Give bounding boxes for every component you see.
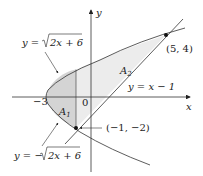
svg-text:2x + 6: 2x + 6 <box>47 150 82 161</box>
upper-parabola-label: y = 2x + 6 <box>21 34 84 48</box>
area-between-curves-diagram: y x −3 0 (5, 4) (−1, −2) A2 A1 y = x − 1… <box>0 0 203 176</box>
leader-lower-label <box>42 123 58 146</box>
svg-text:y =: y = <box>21 37 39 48</box>
lower-parabola-label: y = − 2x + 6 <box>13 147 82 161</box>
leader-upper-label <box>45 52 58 73</box>
svg-text:y = −: y = − <box>13 150 43 161</box>
diagram-canvas: y x −3 0 (5, 4) (−1, −2) A2 A1 y = x − 1… <box>0 0 203 176</box>
region-a1 <box>46 70 76 128</box>
tick-label-zero: 0 <box>82 97 88 108</box>
y-axis-label: y <box>95 7 102 18</box>
tick-label-neg3: −3 <box>33 96 48 107</box>
point-label-neg1-neg2: (−1, −2) <box>106 122 150 133</box>
line-label: y = x − 1 <box>127 81 175 92</box>
point-5-4 <box>164 33 168 37</box>
point-neg1-neg2 <box>74 126 78 130</box>
svg-text:2x + 6: 2x + 6 <box>49 37 84 48</box>
x-axis-label: x <box>186 101 192 112</box>
point-label-5-4: (5, 4) <box>166 43 193 54</box>
